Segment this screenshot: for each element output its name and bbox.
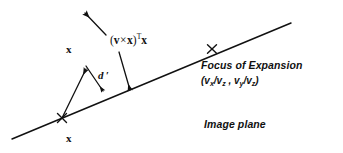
label-x-upper: x — [66, 44, 72, 55]
cross-times-icon: × — [120, 34, 128, 46]
foe-sub-z-1: z — [222, 80, 226, 87]
foe-close-paren: ) — [255, 75, 258, 86]
label-foe-coordinates: (vx/vz , vy/vz) — [201, 76, 259, 86]
foe-slash-1: /v — [214, 75, 222, 86]
foe-comma: , — [226, 75, 234, 86]
label-image-plane: Image plane — [204, 119, 266, 130]
label-cross-product-term: (v×x)Tx — [110, 35, 147, 47]
foe-sub-x: x — [210, 80, 214, 87]
foe-vy: v — [234, 75, 240, 86]
foe-slash-2: /v — [243, 75, 251, 86]
foe-sub-z-2: z — [252, 80, 256, 87]
cross-vector-v: v — [114, 34, 120, 46]
cross-product-up-arrow — [85, 13, 106, 35]
focus-of-expansion-diagram: x x (v×x)Tx d ′ Focus of Expansion (vx/v… — [0, 0, 343, 153]
cross-product-down-arrow — [119, 52, 130, 90]
cross-vector-x-outer: x — [141, 34, 147, 46]
focus-of-expansion-marker — [208, 45, 217, 53]
label-x-lower: x — [66, 133, 72, 144]
vector-x-arrow — [62, 69, 86, 118]
label-focus-of-expansion: Focus of Expansion — [201, 60, 303, 71]
foe-sub-y: y — [240, 80, 244, 87]
label-d-prime: d ′ — [98, 70, 109, 81]
diagram-canvas — [0, 0, 343, 153]
